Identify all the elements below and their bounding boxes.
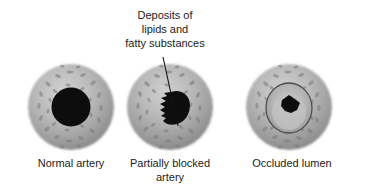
- caption-partial-line-2: artery: [108, 171, 232, 185]
- specimen-normal-artery: [28, 64, 114, 150]
- caption-occluded-line-1: Occluded lumen: [226, 157, 358, 171]
- specimen-partially-blocked-artery: [127, 64, 213, 150]
- callout-leader-line: [163, 57, 178, 126]
- caption-occluded-lumen: Occluded lumen: [226, 157, 358, 171]
- caption-partial-line-1: Partially blocked: [108, 157, 232, 171]
- occluded-artery-plaque: [266, 83, 312, 133]
- occluded-artery-plaque-highlight: [272, 94, 306, 130]
- occluded-artery-wall-texture: [255, 64, 320, 149]
- artery-cross-section-figure: Deposits of lipids and fatty substances …: [0, 0, 384, 185]
- normal-artery-lumen: [52, 88, 91, 127]
- normal-artery-wall: [28, 64, 114, 150]
- plaque-callout-label: Deposits of lipids and fatty substances: [92, 8, 238, 51]
- caption-partially-blocked-artery: Partially blocked artery: [108, 157, 232, 184]
- callout-line-1: Deposits of: [92, 8, 238, 22]
- occluded-artery-residual-lumen: [281, 95, 300, 113]
- partially-blocked-artery-lumen: [160, 91, 190, 125]
- partially-blocked-artery-wall: [127, 64, 213, 150]
- specimen-occluded-lumen-artery: [246, 64, 332, 150]
- callout-line-2: lipids and: [92, 22, 238, 36]
- callout-line-3: fatty substances: [92, 36, 238, 50]
- occluded-artery-wall: [246, 64, 332, 150]
- partially-blocked-artery-wall-texture: [136, 64, 201, 149]
- normal-artery-wall-texture: [37, 64, 102, 149]
